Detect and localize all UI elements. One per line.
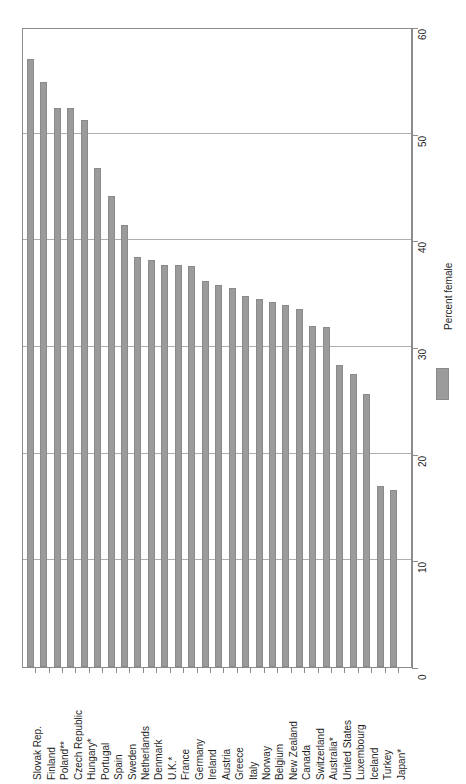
x-axis-tick [49,668,50,673]
bar [148,260,155,667]
x-axis-label: France [181,749,191,780]
chart-figure: Slovak Rep.FinlandPoland**Czech Republic… [0,0,466,784]
x-axis-label: Denmark [154,739,164,780]
bar [202,281,209,667]
x-axis-label: U.K.* [168,757,178,780]
bar [81,120,88,667]
bar [175,265,182,667]
x-axis-label: Canada [302,745,312,780]
x-axis-tick [237,668,238,673]
x-axis-label: Iceland [370,748,380,780]
x-axis-labels: Slovak Rep.FinlandPoland**Czech Republic… [22,676,412,784]
bar [27,59,34,667]
x-axis-tick [344,668,345,673]
bar [161,265,168,667]
bar-series [23,29,411,667]
x-axis-label: Sweden [128,744,138,780]
x-axis-tick [116,668,117,673]
bar [215,285,222,667]
x-axis-tick [331,668,332,673]
x-axis-tick [291,668,292,673]
y-axis-tick-label: 50 [418,136,428,147]
x-axis-tick [143,668,144,673]
y-axis-tick-label: 40 [418,242,428,253]
y-axis-tick-label: 60 [418,29,428,40]
x-axis-label: Austria [222,749,232,780]
x-axis-label: Poland** [60,741,70,780]
x-axis-label: Japan* [397,749,407,780]
bar [94,168,101,667]
bar [188,266,195,667]
x-axis-label: Luxembourg [356,724,366,780]
y-axis-tick-label: 30 [418,349,428,360]
bar [350,374,357,667]
x-axis-ticks [22,668,412,673]
legend-label: Percent female [444,263,454,330]
x-axis-label: Italy [249,762,259,780]
x-axis-label: Norway [262,746,272,780]
bar [390,490,397,667]
x-axis-label: Ireland [208,749,218,780]
legend-swatch [436,368,449,400]
bar [377,486,384,667]
x-axis-label: Greece [235,747,245,780]
x-axis-label: United States [343,720,353,780]
x-axis-label: Netherlands [141,726,151,780]
bar [323,327,330,667]
x-axis-tick [371,668,372,673]
x-axis-label: Turkey [383,750,393,780]
x-axis-label: Finland [47,747,57,780]
bar [121,225,128,667]
legend: Percent female [430,330,466,460]
x-axis-label: Slovak Rep. [33,726,43,780]
bar [54,108,61,667]
bar [134,257,141,667]
y-axis-tick [412,668,418,669]
x-axis-label: Hungary* [87,738,97,780]
bar [67,108,74,667]
bar [108,196,115,667]
x-axis-tick [197,668,198,673]
x-axis-tick [89,668,90,673]
x-axis-tick [385,668,386,673]
x-axis-tick [129,668,130,673]
x-axis-label: Australia* [329,737,339,780]
x-axis-tick [62,668,63,673]
x-axis-tick [170,668,171,673]
x-axis-tick [183,668,184,673]
x-axis-tick [358,668,359,673]
bar [282,305,289,667]
x-axis-label: Switzerland [316,728,326,780]
plot-area [22,28,412,668]
x-axis-tick [156,668,157,673]
x-axis-tick [75,668,76,673]
x-axis-label: Belgium [275,744,285,780]
bar [40,82,47,667]
x-axis-tick [223,668,224,673]
bar [296,309,303,667]
x-axis-tick [318,668,319,673]
x-axis-tick [102,668,103,673]
x-axis-tick [277,668,278,673]
x-axis-tick [398,668,399,673]
bar [269,302,276,667]
bar [336,365,343,667]
y-axis-tick-label: 20 [418,456,428,467]
x-axis-tick [250,668,251,673]
x-axis-tick [210,668,211,673]
bar [229,288,236,667]
y-axis-tick-label: 0 [418,674,428,680]
bar [242,296,249,667]
x-axis-tick [264,668,265,673]
x-axis-tick [304,668,305,673]
bar [256,299,263,667]
x-axis-label: Germany [195,739,205,780]
x-axis-label: Czech Republic [74,710,84,780]
x-axis-tick [35,668,36,673]
x-axis-label: Portugal [101,743,111,780]
x-axis-label: Spain [114,754,124,780]
bar [363,394,370,667]
x-axis-label: New Zealand [289,721,299,780]
bar [309,326,316,667]
y-axis-tick-label: 10 [418,562,428,573]
